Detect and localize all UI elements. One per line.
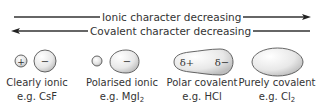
cation-icon xyxy=(92,56,102,66)
species-name: Purely covalent xyxy=(236,76,318,90)
negative-charge: − xyxy=(41,56,49,67)
covalent-arrow-label: Covalent character decreasing xyxy=(88,24,253,38)
formula-subscript: 2 xyxy=(291,96,295,104)
example-prefix: e.g. xyxy=(259,91,281,102)
clearly-ionic-ions: + − xyxy=(15,50,56,72)
species-example: e.g. MgI2 xyxy=(80,90,164,104)
formula-subscript: 2 xyxy=(140,96,144,104)
polar-covalent-molecule: δ+ δ− xyxy=(174,49,233,75)
ionic-arrow-label: Ionic character decreasing xyxy=(100,10,243,24)
negative-charge: − xyxy=(123,56,131,67)
species-example: e.g. HCl xyxy=(162,90,242,104)
formula: Cl xyxy=(281,91,291,102)
positive-charge: + xyxy=(17,57,25,67)
species-purely-covalent: Purely covalent e.g. Cl2 xyxy=(236,76,318,104)
formula: MgI xyxy=(122,91,140,102)
species-example: e.g. CsF xyxy=(2,90,72,104)
species-example: e.g. Cl2 xyxy=(236,90,318,104)
delta-negative: δ− xyxy=(215,57,229,68)
delta-positive: δ+ xyxy=(180,57,194,68)
polarised-ionic-ions: − xyxy=(92,50,139,73)
formula: HCl xyxy=(204,91,221,102)
species-clearly-ionic: Clearly ionic e.g. CsF xyxy=(2,76,72,104)
covalent-arrow-row: Covalent character decreasing xyxy=(0,24,319,38)
formula: CsF xyxy=(39,91,57,102)
example-prefix: e.g. xyxy=(182,91,204,102)
species-polar-covalent: Polar covalent e.g. HCl xyxy=(162,76,242,104)
example-prefix: e.g. xyxy=(17,91,39,102)
nonpolar-bond-cloud-icon xyxy=(252,48,303,76)
example-prefix: e.g. xyxy=(100,91,122,102)
species-name: Polar covalent xyxy=(162,76,242,90)
species-name: Polarised ionic xyxy=(80,76,164,90)
species-polarised-ionic: Polarised ionic e.g. MgI2 xyxy=(80,76,164,104)
species-name: Clearly ionic xyxy=(2,76,72,90)
ionic-arrow-row: Ionic character decreasing xyxy=(0,10,319,24)
